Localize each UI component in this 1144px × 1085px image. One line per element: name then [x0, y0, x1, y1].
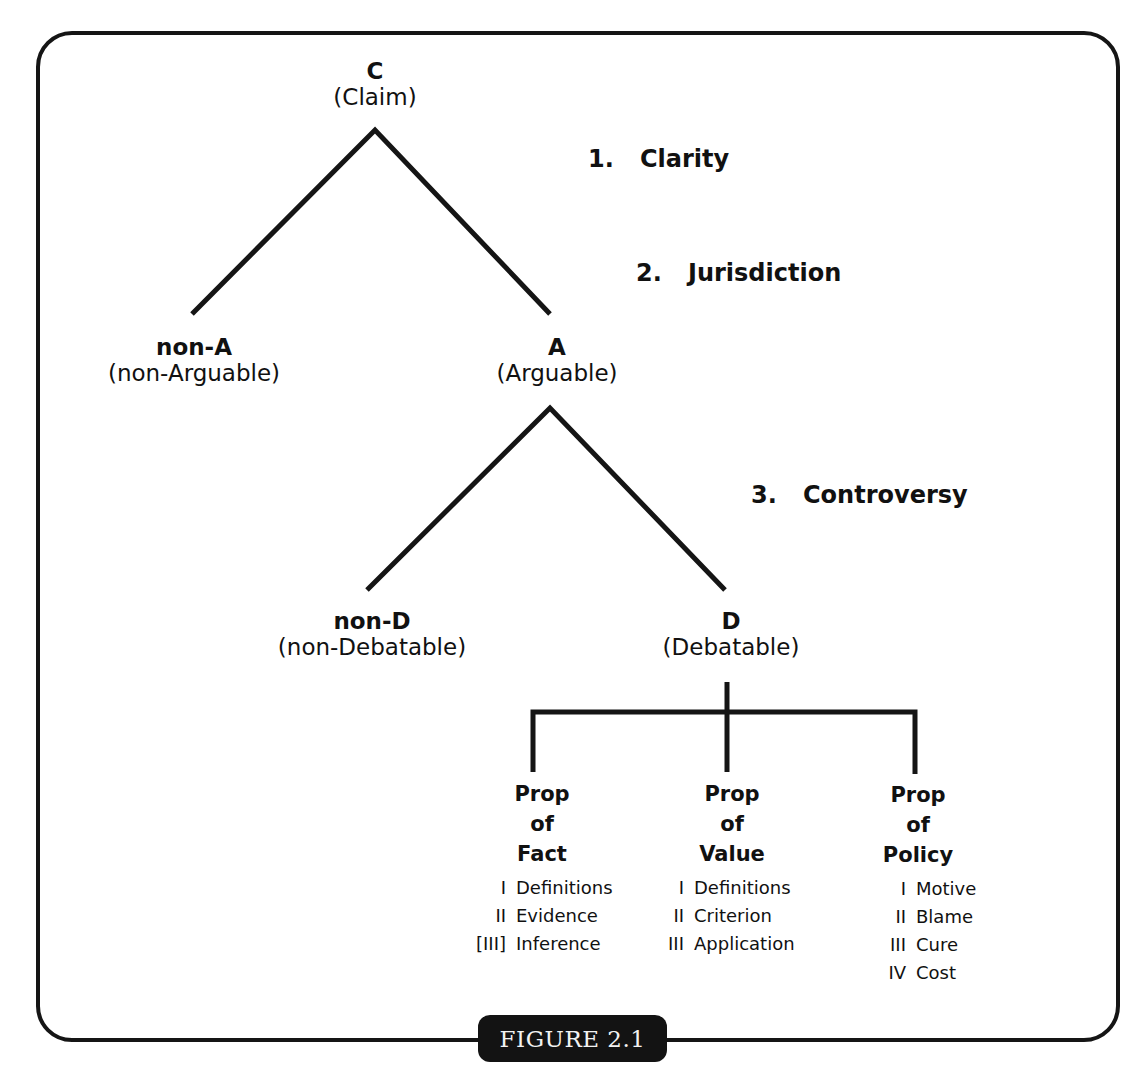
proposition-fact-line3: Fact	[514, 839, 569, 869]
stock-issue-numeral: III	[648, 930, 694, 958]
stock-issue-row: I Definitions	[648, 874, 795, 902]
node-non-arguable-code: non-A	[108, 334, 280, 360]
stock-issue-row: I Motive	[871, 875, 976, 903]
stock-issue-row: I Definitions	[460, 874, 613, 902]
stock-issue-row: II Blame	[871, 903, 976, 931]
stock-issue-numeral: [III]	[460, 930, 516, 958]
criterion-label: Controversy	[803, 481, 968, 509]
arguable-branch-lines	[367, 408, 725, 590]
node-arguable-name: (Arguable)	[496, 360, 617, 386]
proposition-fact: Prop of Fact	[514, 779, 569, 869]
stock-issue-numeral: II	[871, 903, 916, 931]
claim-branch-lines	[192, 130, 550, 314]
stock-issue-label: Blame	[916, 903, 973, 931]
stock-issue-row: IV Cost	[871, 959, 976, 987]
proposition-bracket-line	[533, 712, 915, 774]
stock-issue-numeral: II	[648, 902, 694, 930]
stock-issues-policy: I Motive II Blame III Cure IV Cost	[871, 875, 976, 987]
stock-issues-fact: I Definitions II Evidence [III] Inferenc…	[460, 874, 613, 958]
node-non-arguable: non-A (non-Arguable)	[108, 334, 280, 387]
proposition-value-line2: of	[699, 809, 765, 839]
node-claim-name: (Claim)	[333, 84, 416, 110]
stock-issue-numeral: I	[871, 875, 916, 903]
stock-issue-label: Application	[694, 930, 795, 958]
stock-issue-numeral: I	[648, 874, 694, 902]
figure-label: FIGURE 2.1	[478, 1015, 667, 1062]
stock-issue-numeral: IV	[871, 959, 916, 987]
criterion-label: Jurisdiction	[688, 259, 841, 287]
proposition-value: Prop of Value	[699, 779, 765, 869]
proposition-policy-line3: Policy	[883, 840, 953, 870]
proposition-value-line3: Value	[699, 839, 765, 869]
stock-issue-numeral: III	[871, 931, 916, 959]
proposition-value-line1: Prop	[699, 779, 765, 809]
stock-issue-label: Motive	[916, 875, 976, 903]
proposition-policy: Prop of Policy	[883, 780, 953, 870]
node-arguable-code: A	[496, 334, 617, 360]
stock-issue-row: II Criterion	[648, 902, 795, 930]
node-non-arguable-name: (non-Arguable)	[108, 360, 280, 386]
criterion-number: 3.	[751, 481, 803, 509]
proposition-fact-line2: of	[514, 809, 569, 839]
criterion-clarity: 1.Clarity	[588, 145, 729, 173]
node-claim: C (Claim)	[333, 58, 416, 111]
stock-issue-label: Cure	[916, 931, 958, 959]
node-non-debatable: non-D (non-Debatable)	[278, 608, 466, 661]
stock-issue-row: III Cure	[871, 931, 976, 959]
node-debatable-code: D	[663, 608, 800, 634]
proposition-fact-line1: Prop	[514, 779, 569, 809]
criterion-label: Clarity	[640, 145, 729, 173]
node-debatable: D (Debatable)	[663, 608, 800, 661]
node-debatable-name: (Debatable)	[663, 634, 800, 660]
node-claim-code: C	[333, 58, 416, 84]
stock-issue-row: II Evidence	[460, 902, 613, 930]
criterion-number: 2.	[636, 259, 688, 287]
stock-issue-row: [III] Inference	[460, 930, 613, 958]
stock-issue-numeral: II	[460, 902, 516, 930]
node-arguable: A (Arguable)	[496, 334, 617, 387]
proposition-policy-line1: Prop	[883, 780, 953, 810]
node-non-debatable-name: (non-Debatable)	[278, 634, 466, 660]
stock-issue-label: Criterion	[694, 902, 772, 930]
stock-issue-numeral: I	[460, 874, 516, 902]
stock-issue-label: Definitions	[516, 874, 613, 902]
criterion-controversy: 3.Controversy	[751, 481, 968, 509]
stock-issue-label: Inference	[516, 930, 601, 958]
stock-issue-row: III Application	[648, 930, 795, 958]
proposition-policy-line2: of	[883, 810, 953, 840]
node-non-debatable-code: non-D	[278, 608, 466, 634]
stock-issues-value: I Definitions II Criterion III Applicati…	[648, 874, 795, 958]
criterion-number: 1.	[588, 145, 640, 173]
criterion-jurisdiction: 2.Jurisdiction	[636, 259, 841, 287]
stock-issue-label: Cost	[916, 959, 956, 987]
stock-issue-label: Evidence	[516, 902, 598, 930]
stock-issue-label: Definitions	[694, 874, 791, 902]
